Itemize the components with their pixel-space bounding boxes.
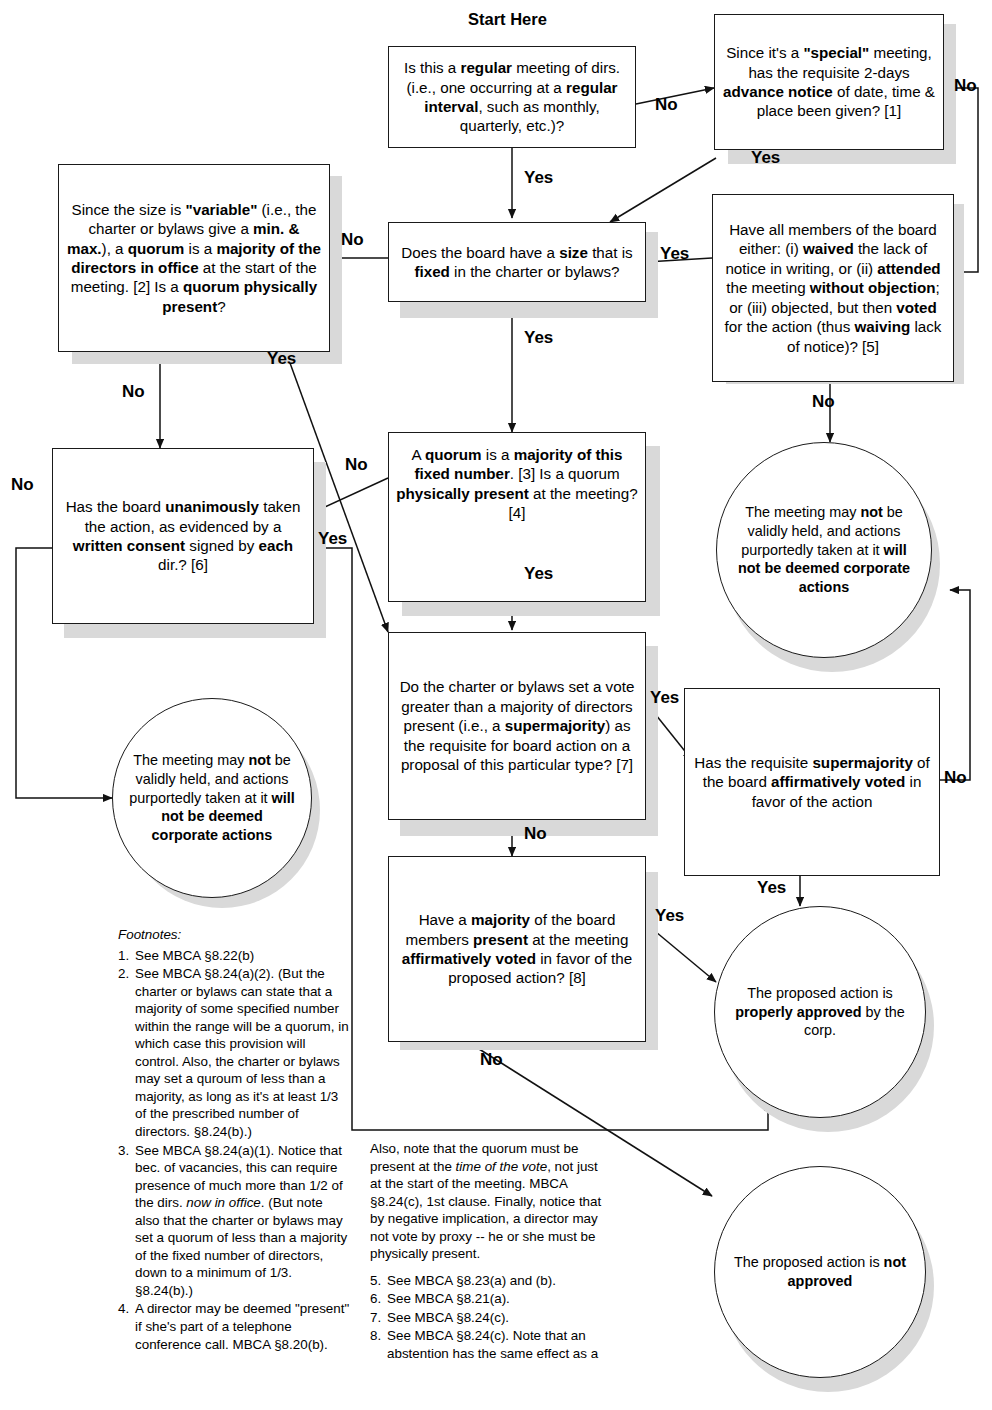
edge-label-variable-no: No [122,382,145,402]
node-is-regular-meeting-text: Is this a regular meeting of dirs. (i.e.… [396,58,628,136]
node-fixed-number-quorum-text: A quorum is a majority of this fixed num… [396,445,638,523]
footnotes-heading: Footnotes: [118,926,350,944]
node-supermajority-voted[interactable]: Has the requisite supermajority of the b… [684,688,940,876]
edge-label-super-yes: Yes [650,688,679,708]
footnote-item: 6.See MBCA §8.21(a). [370,1290,610,1308]
node-outcome-not-approved[interactable]: The proposed action is not approved [714,1166,926,1378]
node-unanimous-written-consent-text: Has the board unanimously taken the acti… [60,497,306,575]
footnote-text: See MBCA §8.21(a). [387,1290,610,1308]
node-waiver-of-notice[interactable]: Have all members of the board either: (i… [712,194,954,382]
node-supermajority-required[interactable]: Do the charter or bylaws set a vote grea… [388,632,646,820]
node-supermajority-voted-text: Has the requisite supermajority of the b… [692,753,932,811]
node-board-size-fixed-text: Does the board have a size that is fixed… [396,243,638,282]
footnote-text: See MBCA §8.24(c). Note that an abstenti… [387,1327,610,1362]
node-is-regular-meeting[interactable]: Is this a regular meeting of dirs. (i.e.… [388,46,636,148]
edge-label-supervoted-no: No [944,768,967,788]
node-variable-size-quorum-text: Since the size is "variable" (i.e., the … [66,200,322,317]
edge-label-fixedquorum-no: No [345,455,368,475]
node-variable-size-quorum[interactable]: Since the size is "variable" (i.e., the … [58,164,330,352]
footnote-item: 7.See MBCA §8.24(c). [370,1309,610,1327]
edge-label-majority-yes: Yes [655,906,684,926]
footnote-text: See MBCA §8.24(a)(2). (But the charter o… [135,965,350,1140]
footnote-number: 3. [118,1142,135,1300]
edge-label-notice-yes: Yes [751,148,780,168]
footnote-number: 5. [370,1272,387,1290]
flowchart-canvas: q_notice --> q_fixed_size --> right rail… [0,0,992,1410]
edge-label-waiver-yes: Yes [660,244,689,264]
edge-label-notice-no: No [954,76,977,96]
footnote-text: See MBCA §8.23(a) and (b). [387,1272,610,1290]
footnote-item: 8.See MBCA §8.24(c). Note that an absten… [370,1327,610,1362]
footnotes-left-list: 1.See MBCA §8.22(b)2.See MBCA §8.24(a)(2… [118,947,350,1354]
edge-label-regular-yes: Yes [524,168,553,188]
edge-label-waiver-no: No [812,392,835,412]
edge-notice-yes [610,158,716,222]
footnote-number: 4. [118,1300,135,1353]
footnote-text: See MBCA §8.24(a)(1). Notice that bec. o… [135,1142,350,1300]
footnote-item: 3.See MBCA §8.24(a)(1). Notice that bec.… [118,1142,350,1300]
footnote-number: 8. [370,1327,387,1362]
edge-label-super-no: No [524,824,547,844]
footnotes-right-intro: Also, note that the quorum must be prese… [370,1140,610,1263]
footnote-number: 7. [370,1309,387,1327]
node-board-size-fixed[interactable]: Does the board have a size that is fixed… [388,222,646,302]
node-special-meeting-notice-text: Since it's a "special" meeting, has the … [722,43,936,121]
node-majority-voted[interactable]: Have a majority of the board members pre… [388,856,646,1042]
footnote-text: See MBCA §8.22(b) [135,947,350,965]
edge-label-consent-yes: Yes [318,529,347,549]
footnote-item: 5.See MBCA §8.23(a) and (b). [370,1272,610,1290]
edge-label-consent-no: No [11,475,34,495]
edge-label-variable-yes: Yes [267,349,296,369]
edge-label-supervoted-yes: Yes [757,878,786,898]
edge-label-fixedsize-yes: Yes [524,328,553,348]
footnote-text: A director may be deemed "present" if sh… [135,1300,350,1353]
node-outcome-meeting-invalid-right[interactable]: The meeting may not be validly held, and… [716,442,932,658]
node-outcome-meeting-invalid-left-text: The meeting may not be validly held, and… [127,751,297,845]
footnote-number: 1. [118,947,135,965]
node-outcome-properly-approved[interactable]: The proposed action is properly approved… [714,906,926,1118]
footnote-item: 1.See MBCA §8.22(b) [118,947,350,965]
node-majority-voted-text: Have a majority of the board members pre… [396,910,638,988]
edge-label-majority-no: No [480,1050,503,1070]
node-fixed-number-quorum[interactable]: A quorum is a majority of this fixed num… [388,432,646,602]
node-supermajority-required-text: Do the charter or bylaws set a vote grea… [396,677,638,774]
edge-label-fixedsize-no: No [341,230,364,250]
footnotes-right-list: 5.See MBCA §8.23(a) and (b).6.See MBCA §… [370,1272,610,1363]
footnote-number: 6. [370,1290,387,1308]
node-unanimous-written-consent[interactable]: Has the board unanimously taken the acti… [52,448,314,624]
footnote-item: 2.See MBCA §8.24(a)(2). (But the charter… [118,965,350,1140]
node-outcome-not-approved-text: The proposed action is not approved [729,1253,911,1290]
node-waiver-of-notice-text: Have all members of the board either: (i… [720,220,946,356]
footnotes-right: Also, note that the quorum must be prese… [370,1140,610,1364]
footnotes-left: Footnotes: 1.See MBCA §8.22(b)2.See MBCA… [118,926,350,1354]
edge-supervoted-no [940,590,970,780]
footnote-number: 2. [118,965,135,1140]
node-special-meeting-notice[interactable]: Since it's a "special" meeting, has the … [714,14,944,150]
edge-label-regular-no: No [655,95,678,115]
node-outcome-properly-approved-text: The proposed action is properly approved… [729,984,911,1040]
edge-label-fixedquorum-yes: Yes [524,564,553,584]
footnote-text: See MBCA §8.24(c). [387,1309,610,1327]
footnote-item: 4.A director may be deemed "present" if … [118,1300,350,1353]
node-outcome-meeting-invalid-right-text: The meeting may not be validly held, and… [731,503,917,597]
node-outcome-meeting-invalid-left[interactable]: The meeting may not be validly held, and… [112,698,312,898]
start-here-label: Start Here [468,10,547,29]
